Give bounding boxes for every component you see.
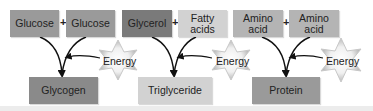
- energy-label: Energy: [326, 55, 359, 67]
- reactant-fatty-acids: Fatty acids: [178, 10, 227, 37]
- reactant-glucose-1: Glucose: [10, 10, 59, 37]
- reactant-amino-acid-1: Amino acid: [233, 10, 283, 37]
- energy-label: Energy: [216, 55, 249, 67]
- product-triglyceride: Triglyceride: [138, 77, 212, 104]
- product-protein: Protein: [252, 77, 320, 104]
- reactant-glucose-2: Glucose: [66, 10, 115, 37]
- product-glycogen: Glycogen: [29, 77, 98, 104]
- reactant-amino-acid-2: Amino acid: [289, 10, 339, 37]
- reactant-glycerol: Glycerol: [122, 10, 172, 37]
- energy-label: Energy: [103, 55, 136, 67]
